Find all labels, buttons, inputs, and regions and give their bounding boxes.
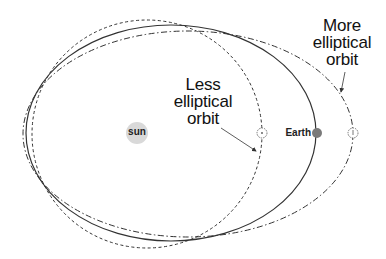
less-elliptical-label: Less elliptical orbit — [167, 76, 239, 127]
more-elliptical-label-line1: More — [302, 17, 382, 34]
more-elliptical-label-line2: elliptical — [302, 34, 382, 51]
more-orbit-position-marker — [348, 128, 358, 138]
more-elliptical-label-line3: orbit — [302, 51, 382, 68]
more-elliptical-label: More elliptical orbit — [302, 17, 382, 68]
orbit-diagram: sun Earth Less elliptical orbit More ell… — [0, 0, 386, 259]
less-orbit-position-marker — [257, 128, 267, 138]
earth-orbit — [26, 25, 316, 241]
less-elliptical-pointer — [221, 128, 256, 151]
less-elliptical-label-line2: elliptical — [167, 93, 239, 110]
more-elliptical-pointer — [341, 72, 345, 92]
earth-icon — [312, 128, 322, 138]
sun-label: sun — [126, 127, 148, 137]
less-elliptical-label-line1: Less — [167, 76, 239, 93]
earth-label: Earth — [283, 128, 311, 138]
less-elliptical-label-line3: orbit — [167, 110, 239, 127]
